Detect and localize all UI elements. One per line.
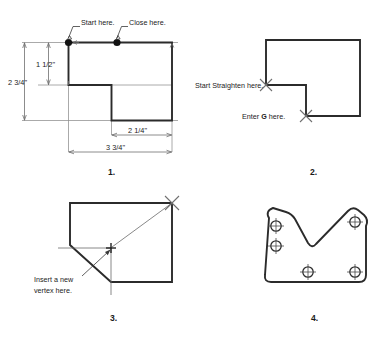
enter-g-prefix: Enter	[242, 112, 261, 121]
hole-upper-right	[347, 214, 363, 230]
hole-lower-left	[268, 238, 284, 254]
rubber-band-line	[112, 203, 172, 247]
start-straighten-here-label: Start Straighten here.	[195, 81, 263, 90]
close-here-label: Close here.	[129, 18, 166, 27]
dim-total-width-text: 3 3/4"	[106, 143, 125, 152]
start-here-arrowhead	[68, 36, 72, 40]
dim-upper-height-text: 1 1/2"	[36, 60, 55, 69]
panel-2-group: Start Straighten here. Enter G here. 2.	[195, 40, 360, 177]
insert-vertex-leader	[82, 251, 109, 276]
start-here-label: Start here.	[81, 18, 115, 27]
start-node-dot	[65, 39, 72, 46]
panel2-polyline-shape	[266, 40, 360, 116]
hole-upper-left	[268, 218, 284, 234]
panel-3-number: 3.	[110, 313, 117, 323]
enter-g-suffix: here.	[267, 112, 285, 121]
panel3-polyline-shape	[70, 203, 172, 282]
panel1-polyline-shape	[69, 43, 173, 121]
panel-2-number: 2.	[310, 167, 317, 177]
insert-vertex-label-line1: Insert a new	[34, 275, 74, 284]
figure-root: Start here. Close here. 2 3/4" 1 1/2" 2 …	[0, 0, 389, 339]
close-node-dot	[113, 39, 120, 46]
panel-1-group: Start here. Close here. 2 3/4" 1 1/2" 2 …	[8, 18, 178, 177]
panel-4-number: 4.	[311, 313, 318, 323]
technical-figure-canvas: Start here. Close here. 2 3/4" 1 1/2" 2 …	[0, 0, 389, 339]
dim-notch-width-text: 2 1/4"	[128, 126, 147, 135]
insert-vertex-label-line2: vertex here.	[34, 286, 72, 295]
panel-4-group: 4.	[265, 208, 367, 323]
dim-total-height-text: 2 3/4"	[8, 78, 27, 87]
panel-1-number: 1.	[108, 167, 115, 177]
hole-bottom-right	[347, 264, 363, 280]
top-edge-direction-arrow	[74, 41, 80, 45]
panel4-bracket-outline	[265, 208, 367, 282]
close-here-arrowhead	[116, 36, 120, 40]
panel-3-group: Insert a new vertex here. 3.	[34, 196, 179, 323]
enter-g-here-label: Enter G here.	[242, 112, 285, 121]
hole-bottom-center	[300, 264, 316, 280]
